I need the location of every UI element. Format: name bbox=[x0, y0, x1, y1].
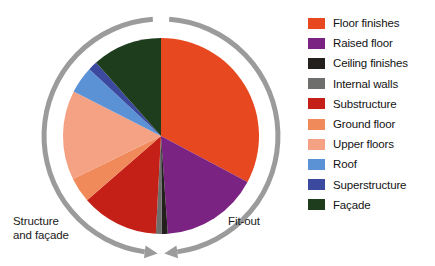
chart-legend: Floor finishesRaised floorCeiling finish… bbox=[308, 13, 435, 215]
legend-item-substructure[interactable]: Substructure bbox=[308, 94, 435, 114]
legend-item-fa-ade[interactable]: Façade bbox=[308, 195, 435, 215]
legend-label: Raised floor bbox=[333, 37, 393, 49]
legend-label: Superstructure bbox=[333, 179, 406, 191]
legend-item-ground-floor[interactable]: Ground floor bbox=[308, 114, 435, 134]
legend-item-superstructure[interactable]: Superstructure bbox=[308, 175, 435, 195]
label-structure-and-facade: Structure and façade bbox=[13, 215, 69, 242]
legend-swatch-raised-floor bbox=[308, 38, 325, 49]
legend-label: Upper floors bbox=[333, 138, 394, 150]
legend-item-raised-floor[interactable]: Raised floor bbox=[308, 33, 435, 53]
legend-label: Ground floor bbox=[333, 118, 395, 130]
legend-swatch-superstructure bbox=[308, 179, 325, 190]
legend-swatch-ground-floor bbox=[308, 119, 325, 130]
fit-out-arrow-head bbox=[164, 245, 178, 258]
legend-item-upper-floors[interactable]: Upper floors bbox=[308, 134, 435, 154]
legend-swatch-upper-floors bbox=[308, 139, 325, 150]
legend-item-roof[interactable]: Roof bbox=[308, 154, 435, 174]
pie-slices-group bbox=[63, 38, 259, 234]
label-fit-out: Fit-out bbox=[228, 215, 260, 229]
legend-label: Façade bbox=[333, 199, 370, 211]
legend-swatch-facade bbox=[308, 199, 325, 210]
legend-swatch-substructure bbox=[308, 98, 325, 109]
legend-item-ceiling-finishes[interactable]: Ceiling finishes bbox=[308, 53, 435, 73]
legend-label: Roof bbox=[333, 158, 357, 170]
pie-chart-figure: Structure and façade Fit-out Floor finis… bbox=[0, 0, 435, 266]
legend-item-internal-walls[interactable]: Internal walls bbox=[308, 74, 435, 94]
legend-item-floor-finishes[interactable]: Floor finishes bbox=[308, 13, 435, 33]
legend-swatch-floor-finishes bbox=[308, 18, 325, 29]
legend-label: Ceiling finishes bbox=[333, 57, 408, 69]
legend-swatch-internal-walls bbox=[308, 78, 325, 89]
legend-label: Floor finishes bbox=[333, 17, 399, 29]
structure-facade-arrow-head bbox=[144, 245, 158, 258]
legend-label: Substructure bbox=[333, 98, 396, 110]
legend-label: Internal walls bbox=[333, 78, 398, 90]
legend-swatch-roof bbox=[308, 159, 325, 170]
legend-swatch-ceiling-finishes bbox=[308, 58, 325, 69]
